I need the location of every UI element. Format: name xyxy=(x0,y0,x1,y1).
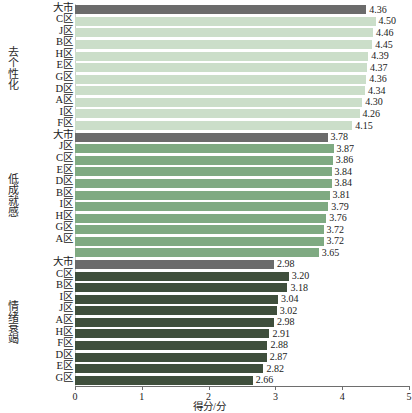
category-tick-label: B区 xyxy=(19,187,74,198)
category-tick-label: C区 xyxy=(19,13,74,24)
plot-area: 4.364.504.464.454.394.374.364.344.304.26… xyxy=(75,4,409,386)
bar-value-label: 3.79 xyxy=(331,202,349,212)
bar xyxy=(75,52,368,61)
category-tick-label: 大市 xyxy=(19,256,74,267)
category-tick-label: H区 xyxy=(19,48,74,59)
bar-value-label: 3.87 xyxy=(337,144,355,154)
bar xyxy=(75,341,267,350)
bar xyxy=(75,167,332,176)
x-axis-tick xyxy=(209,386,210,390)
bar-value-label: 4.34 xyxy=(368,86,386,96)
bar-value-label: 3.72 xyxy=(327,236,345,246)
x-axis-line xyxy=(75,386,409,387)
bar-value-label: 3.18 xyxy=(290,283,308,293)
bar-value-label: 4.30 xyxy=(365,97,383,107)
bar xyxy=(75,272,289,281)
bar-value-label: 4.46 xyxy=(376,28,394,38)
category-tick-label: I区 xyxy=(19,198,74,209)
group-label-3: 情绪衰竭 xyxy=(2,299,18,345)
category-tick-label: D区 xyxy=(19,83,74,94)
bar xyxy=(75,376,253,385)
bar-value-label: 3.02 xyxy=(280,306,298,316)
category-tick-label: I区 xyxy=(19,291,74,302)
bar-value-label: 4.36 xyxy=(369,5,387,15)
bar-value-label: 3.78 xyxy=(331,132,349,142)
category-tick-label: H区 xyxy=(19,210,74,221)
bar xyxy=(75,5,366,14)
category-tick-label: B区 xyxy=(19,279,74,290)
category-tick-label: G区 xyxy=(19,221,74,232)
bar xyxy=(75,329,269,338)
bar xyxy=(75,121,352,130)
category-tick-label: E区 xyxy=(19,59,74,70)
bar-value-label: 3.86 xyxy=(336,155,354,165)
category-tick-label-column: 大市C区J区B区H区E区G区D区A区I区F区大市J区C区E区D区B区I区H区G区… xyxy=(18,0,74,413)
group-label-2: 低成就感 xyxy=(2,172,18,218)
bar-value-label: 4.37 xyxy=(370,63,388,73)
category-tick-label: H区 xyxy=(19,326,74,337)
x-axis-title: 得分/分 xyxy=(0,401,409,412)
category-tick-label: A区 xyxy=(19,314,74,325)
bar xyxy=(75,179,332,188)
bar-value-label: 2.98 xyxy=(277,259,295,269)
x-axis-title-text: 得分/分 xyxy=(193,401,226,412)
bar xyxy=(75,63,367,72)
bar-value-label: 4.36 xyxy=(369,74,387,84)
category-tick-label: C区 xyxy=(19,268,74,279)
x-axis-tick xyxy=(142,386,143,390)
category-tick-label: D区 xyxy=(19,349,74,360)
bar xyxy=(75,133,328,142)
bar-value-label: 2.88 xyxy=(270,340,288,350)
bar xyxy=(75,75,366,84)
bar-value-label: 4.15 xyxy=(355,121,373,131)
bar xyxy=(75,28,373,37)
bar xyxy=(75,248,319,257)
category-tick-label: D区 xyxy=(19,175,74,186)
x-axis-tick xyxy=(342,386,343,390)
bar xyxy=(75,98,362,107)
bar xyxy=(75,318,274,327)
bar xyxy=(75,237,324,246)
category-tick-label: A区 xyxy=(19,233,74,244)
bar xyxy=(75,109,360,118)
category-tick-label: 大市 xyxy=(19,2,74,13)
x-axis-tick xyxy=(275,386,276,390)
bar-value-label: 3.04 xyxy=(281,294,299,304)
category-tick-label: F区 xyxy=(19,337,74,348)
category-tick-label: G区 xyxy=(19,372,74,383)
bar xyxy=(75,283,287,292)
bar xyxy=(75,214,326,223)
bar xyxy=(75,144,334,153)
bar-value-label: 4.50 xyxy=(379,16,397,26)
category-tick-label: E区 xyxy=(19,164,74,175)
bar xyxy=(75,191,330,200)
bar-value-label: 3.84 xyxy=(335,178,353,188)
bar xyxy=(75,202,328,211)
bar-value-label: 2.82 xyxy=(266,364,284,374)
bar xyxy=(75,260,274,269)
bar-value-label: 3.20 xyxy=(292,271,310,281)
bar-value-label: 2.87 xyxy=(270,352,288,362)
bar-value-label: 3.76 xyxy=(329,213,347,223)
bar xyxy=(75,225,324,234)
category-tick-label: B区 xyxy=(19,36,74,47)
bar xyxy=(75,40,372,49)
bar-value-label: 2.66 xyxy=(256,375,274,385)
bar-value-label: 4.26 xyxy=(363,109,381,119)
bar-value-label: 3.65 xyxy=(322,248,340,258)
bar-value-label: 4.39 xyxy=(371,51,389,61)
bar xyxy=(75,353,267,362)
category-tick-label: 大市 xyxy=(19,129,74,140)
bar xyxy=(75,17,376,26)
category-tick-label: F区 xyxy=(19,117,74,128)
bar xyxy=(75,306,277,315)
category-tick-label: G区 xyxy=(19,71,74,82)
bar-value-label: 3.72 xyxy=(327,225,345,235)
bar-value-label: 4.45 xyxy=(375,40,393,50)
category-tick-label: J区 xyxy=(19,140,74,151)
category-tick-label: E区 xyxy=(19,360,74,371)
bar xyxy=(75,295,278,304)
bar-value-label: 2.91 xyxy=(272,329,290,339)
bar-value-label: 3.81 xyxy=(333,190,351,200)
group-label-1: 去个性化 xyxy=(2,45,18,91)
